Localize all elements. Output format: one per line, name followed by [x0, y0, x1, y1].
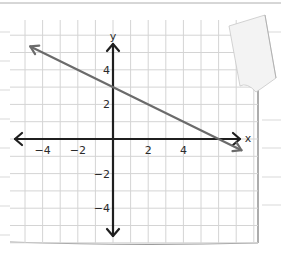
y-tick-label: −2 [94, 168, 110, 181]
x-tick-label: 4 [180, 144, 187, 157]
x-tick-label: 2 [145, 144, 152, 157]
x-tick-label: −2 [70, 144, 86, 157]
graph-paper-figure: −4−22442−2−4xy [0, 0, 281, 257]
y-tick-label: 2 [103, 98, 110, 111]
x-axis-label: x [245, 132, 252, 145]
y-tick-label: −4 [94, 202, 110, 215]
y-axis-label: y [110, 30, 117, 43]
y-tick-label: 4 [103, 64, 110, 77]
x-tick-label: −4 [34, 144, 50, 157]
